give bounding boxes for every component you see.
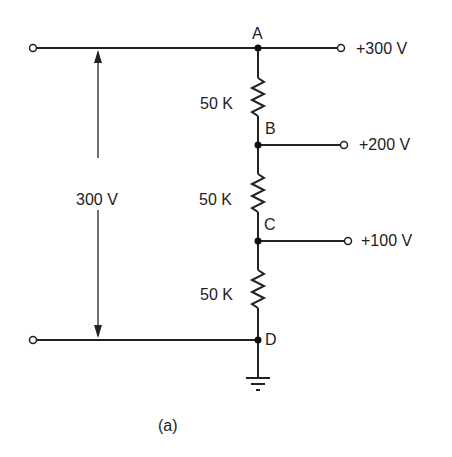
resistor-cd xyxy=(252,270,264,308)
output-label-300v: +300 V xyxy=(356,41,407,57)
node-label-a: A xyxy=(252,26,263,42)
total-voltage-label: 300 V xyxy=(76,192,118,208)
output-label-100v: +100 V xyxy=(361,233,412,249)
junction-c xyxy=(255,238,262,245)
voltage-divider-circuit xyxy=(0,0,452,457)
resistor-label-bc: 50 K xyxy=(199,192,232,208)
resistor-bc xyxy=(252,174,264,212)
terminal-input-top xyxy=(30,45,37,52)
node-label-d: D xyxy=(265,332,277,348)
junction-d xyxy=(255,337,262,344)
arrow-down-icon xyxy=(94,325,102,338)
ground-icon xyxy=(246,378,270,390)
terminal-100v xyxy=(345,238,352,245)
junction-a xyxy=(255,45,262,52)
output-label-200v: +200 V xyxy=(359,137,410,153)
junction-b xyxy=(255,142,262,149)
terminal-300v xyxy=(338,45,345,52)
node-label-c: C xyxy=(264,217,276,233)
resistor-label-ab: 50 K xyxy=(200,96,233,112)
arrow-up-icon xyxy=(94,50,102,63)
resistor-label-cd: 50 K xyxy=(200,287,233,303)
node-label-b: B xyxy=(265,121,276,137)
terminal-input-bottom xyxy=(30,337,37,344)
resistor-ab xyxy=(252,78,264,116)
terminal-200v xyxy=(341,142,348,149)
figure-caption: (a) xyxy=(158,418,178,434)
